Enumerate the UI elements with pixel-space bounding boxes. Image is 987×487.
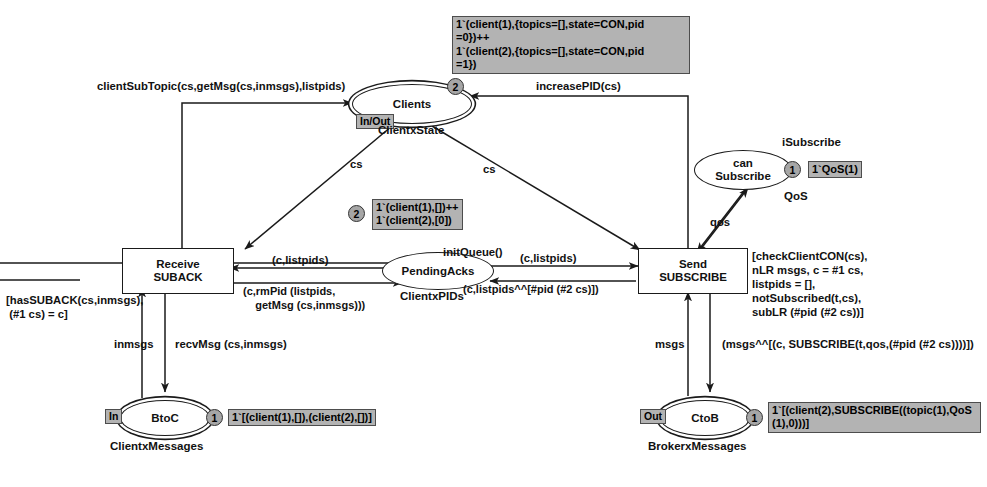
place-pending-acks-marking: 1`(client(1),[])++ 1`(client(2),[0]) xyxy=(372,199,463,230)
place-ctob-marking: 1`[(client(2),SUBSCRIBE((topic(1),QoS (1… xyxy=(768,402,981,433)
transition-receive-suback-label-line2: SUBACK xyxy=(153,271,202,284)
transition-send-subscribe[interactable]: Send SUBSCRIBE xyxy=(638,248,748,294)
transition-send-subscribe-label-line1: Send xyxy=(679,258,707,271)
arc-label-inmsgs: inmsgs xyxy=(114,337,154,351)
place-pending-acks-label: PendingAcks xyxy=(402,265,475,278)
arc-label-cs-left: cs xyxy=(350,157,363,171)
cpn-diagram-canvas: Clients In/Out ClientxState 2 1`(client(… xyxy=(0,0,987,487)
place-btoc-token-count: 1 xyxy=(206,409,223,426)
place-clients-type: ClientxState xyxy=(378,124,444,136)
arc-label-client-sub-topic: clientSubTopic(cs,getMsg(cs,inmsgs),list… xyxy=(97,79,345,93)
place-btoc[interactable]: BtoC xyxy=(120,400,210,436)
place-clients-label: Clients xyxy=(393,98,431,111)
place-can-subscribe-type: QoS xyxy=(784,190,808,202)
place-ctob[interactable]: CtoB xyxy=(660,400,750,436)
place-pending-acks-token-count: 2 xyxy=(348,205,365,222)
arc-label-cs-right: cs xyxy=(483,162,496,176)
place-can-subscribe-label-line2: Subscribe xyxy=(715,170,771,183)
transition-send-subscribe-guard: [checkClientCON(cs), nLR msgs, c = #1 cs… xyxy=(752,249,868,320)
place-can-subscribe[interactable]: can Subscribe xyxy=(694,150,792,190)
arc-clients-to-send-subscribe xyxy=(432,126,640,250)
transition-receive-suback[interactable]: Receive SUBACK xyxy=(122,248,234,294)
place-ctob-label: CtoB xyxy=(691,412,718,425)
arc-label-c-rmpid: (c,rmPid (listpids, getMsg (cs,inmsgs))) xyxy=(243,285,365,313)
arc-send-subscribe-to-clients xyxy=(470,96,688,252)
arc-label-qos: qos xyxy=(710,215,730,229)
place-btoc-marking: 1`[(client(1),[]),(client(2),[])] xyxy=(228,409,376,426)
arc-label-increase-pid: increasePID(cs) xyxy=(536,79,621,93)
arc-label-msgs-append: (msgs^^[(c, SUBSCRIBE(t,qos,(#pid (#2 cs… xyxy=(722,337,974,351)
arc-label-c-listpids-left: (c,listpids) xyxy=(272,253,329,267)
place-btoc-type: ClientxMessages xyxy=(110,440,203,452)
place-btoc-label: BtoC xyxy=(151,412,178,425)
arc-clients-to-receive-suback xyxy=(245,126,392,249)
place-ctob-port-tag: Out xyxy=(640,409,666,424)
transition-send-subscribe-label-line2: SUBSCRIBE xyxy=(659,271,727,284)
arc-label-init-queue: initQueue() xyxy=(443,245,503,259)
arc-label-recv-msg: recvMsg (cs,inmsgs) xyxy=(175,337,287,351)
transition-receive-suback-label-line1: Receive xyxy=(156,258,199,271)
place-can-subscribe-token-count: 1 xyxy=(784,161,801,178)
place-clients-marking: 1`(client(1),{topics=[],state=CON,pid =0… xyxy=(452,16,690,74)
place-pending-acks-type: ClientxPIDs xyxy=(400,290,464,302)
place-can-subscribe-name-above: iSubscribe xyxy=(782,136,841,148)
place-can-subscribe-label-line1: can xyxy=(733,157,753,170)
arc-label-c-listpids-right: (c,listpids) xyxy=(520,251,577,265)
place-clients-token-count: 2 xyxy=(447,78,464,95)
transition-receive-suback-guard: [hasSUBACK(cs,inmsgs), (#1 cs) = c] xyxy=(6,293,143,321)
arc-label-msgs: msgs xyxy=(655,337,685,351)
place-btoc-port-tag: In xyxy=(105,409,122,424)
place-can-subscribe-marking: 1`QoS(1) xyxy=(808,161,862,178)
place-ctob-token-count: 1 xyxy=(746,409,763,426)
arc-label-c-listpids-append: (c,listpids^^[#pid (#2 cs)]) xyxy=(463,283,599,297)
place-ctob-type: BrokerxMessages xyxy=(648,440,746,452)
